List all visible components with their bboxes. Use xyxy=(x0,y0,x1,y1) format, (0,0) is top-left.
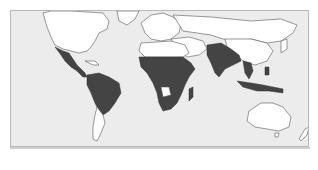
caribbean xyxy=(85,61,99,65)
map-label: World map xyxy=(0,0,1,1)
new-zealand xyxy=(299,127,309,141)
southern-africa-white xyxy=(161,87,171,97)
north-america xyxy=(43,11,109,53)
south-america-north xyxy=(87,73,121,115)
philippines xyxy=(265,67,269,75)
japan xyxy=(281,39,287,53)
indonesia xyxy=(237,81,283,93)
madagascar xyxy=(189,87,193,101)
world-map xyxy=(11,11,309,147)
tasmania xyxy=(275,133,279,137)
world-map-frame xyxy=(10,10,309,147)
greenland xyxy=(117,11,139,25)
frame-shadow xyxy=(10,147,310,149)
australia xyxy=(247,103,291,131)
sub-saharan-africa xyxy=(139,57,195,111)
